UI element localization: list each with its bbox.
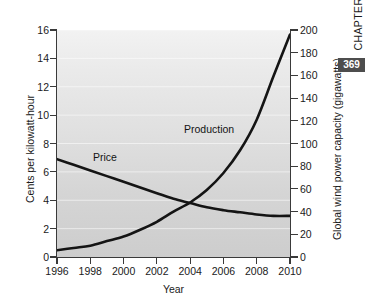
left-axis-tick: [50, 115, 57, 116]
right-axis-tick-label: 160: [300, 70, 318, 81]
x-axis-tick-label: 2008: [245, 266, 268, 277]
x-axis-tick-label: 2000: [112, 266, 135, 277]
right-axis-tick: [291, 98, 298, 99]
right-axis-tick: [291, 188, 298, 189]
right-axis-tick: [291, 52, 298, 53]
right-axis-tick-label: 140: [300, 93, 318, 104]
right-axis-tick: [291, 75, 298, 76]
left-axis-tick-label: 2: [43, 224, 49, 235]
left-axis-title: Cents per kilowatt-hour: [24, 49, 36, 249]
x-axis-title: Year: [57, 283, 290, 295]
right-axis-tick-label: 80: [300, 161, 312, 172]
right-axis-tick-label: 200: [300, 25, 318, 36]
right-axis-title: Global wind power capacity (gigawatts): [331, 49, 343, 249]
x-axis-tick-label: 2006: [212, 266, 235, 277]
left-axis-tick-label: 6: [43, 167, 49, 178]
right-axis-tick: [291, 120, 298, 121]
left-axis-tick: [50, 86, 57, 87]
x-axis-tick: [256, 258, 257, 264]
plot-canvas: [57, 30, 290, 257]
x-axis-tick: [223, 258, 224, 264]
x-axis-tick-label: 1998: [79, 266, 102, 277]
right-axis-tick-label: 40: [300, 207, 312, 218]
right-axis-tick-label: 0: [300, 252, 306, 263]
right-axis-tick: [291, 29, 298, 30]
right-axis-tick-label: 180: [300, 48, 318, 59]
right-axis-tick-label: 60: [300, 184, 312, 195]
x-axis-tick: [156, 258, 157, 264]
left-axis-tick: [50, 200, 57, 201]
x-axis-tick: [289, 258, 290, 264]
production-series-label: Production: [184, 124, 234, 135]
left-axis-tick: [50, 29, 57, 30]
left-axis-tick-label: 10: [37, 110, 49, 121]
left-axis-tick: [50, 228, 57, 229]
price-series-label: Price: [93, 152, 117, 163]
x-axis-tick: [90, 258, 91, 264]
right-axis-tick: [291, 143, 298, 144]
left-axis-tick: [50, 58, 57, 59]
x-axis-tick-label: 2002: [145, 266, 168, 277]
price-line: [57, 159, 290, 216]
right-axis-tick-label: 100: [300, 139, 318, 150]
plot-area: [57, 30, 290, 257]
right-axis-tick-label: 20: [300, 229, 312, 240]
left-axis-tick-label: 16: [37, 25, 49, 36]
left-axis-tick: [50, 171, 57, 172]
left-axis-tick-label: 0: [43, 252, 49, 263]
left-axis-tick-label: 8: [43, 139, 49, 150]
page-number-badge: 369: [338, 58, 365, 72]
x-axis-tick: [190, 258, 191, 264]
x-axis-tick: [123, 258, 124, 264]
x-axis-tick-label: 2010: [278, 266, 301, 277]
left-axis-tick: [50, 143, 57, 144]
right-axis-tick: [291, 234, 298, 235]
left-axis-tick-label: 14: [37, 53, 49, 64]
right-axis-tick: [291, 211, 298, 212]
x-axis-tick: [56, 258, 57, 264]
right-axis-tick-label: 120: [300, 116, 318, 127]
left-axis-tick-label: 4: [43, 195, 49, 206]
x-axis-tick-label: 2004: [178, 266, 201, 277]
right-axis-tick: [291, 256, 298, 257]
right-axis-tick: [291, 166, 298, 167]
left-axis-tick-label: 12: [37, 82, 49, 93]
x-axis-tick-label: 1996: [45, 266, 68, 277]
production-line: [57, 35, 290, 251]
